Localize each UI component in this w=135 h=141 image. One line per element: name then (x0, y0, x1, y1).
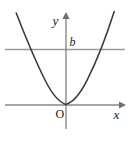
b-value-label: b (70, 35, 76, 49)
x-axis-label: x (113, 107, 120, 122)
y-axis-arrow-icon (62, 12, 69, 19)
y-axis-label: y (51, 13, 59, 28)
x-axis-arrow-icon (119, 101, 126, 108)
coordinate-plane-svg: y x b O (0, 0, 135, 141)
parabola-curve (16, 12, 114, 105)
origin-label: O (56, 107, 65, 121)
parabola-figure: y x b O (0, 0, 135, 141)
